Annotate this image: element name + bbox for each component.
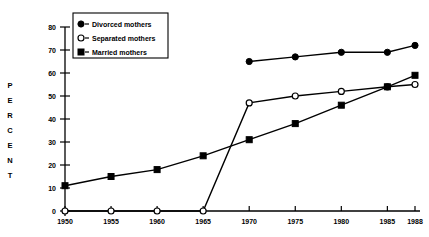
legend-marker	[78, 35, 84, 41]
y-tick-label: 0	[52, 208, 56, 215]
data-point-marker	[246, 100, 252, 106]
data-point-marker	[292, 54, 298, 60]
x-tick-label: 1950	[57, 218, 73, 225]
y-axis-tick-labels: 01020304050607080	[48, 24, 56, 215]
x-tick-label: 1985	[380, 218, 396, 225]
y-axis-title-letter: C	[7, 126, 13, 135]
x-tick-label: 1960	[149, 218, 165, 225]
y-tick-label: 30	[48, 139, 56, 146]
data-point-marker	[412, 42, 418, 48]
x-tick-label: 1988	[407, 218, 423, 225]
legend-entry-label: Married mothers	[92, 49, 147, 56]
x-tick-label: 1980	[334, 218, 350, 225]
x-tick-label: 1965	[195, 218, 211, 225]
legend-marker	[78, 49, 84, 55]
data-point-marker	[384, 49, 390, 55]
data-point-marker	[246, 58, 252, 64]
x-tick-label: 1955	[103, 218, 119, 225]
data-point-marker	[338, 102, 344, 108]
x-axis-ticks	[65, 206, 415, 211]
data-point-marker	[412, 82, 418, 88]
data-point-marker	[246, 137, 252, 143]
series-lines-group	[65, 45, 415, 211]
y-tick-label: 10	[48, 185, 56, 192]
legend-entry-label: Divorced mothers	[92, 21, 152, 28]
legend: Divorced mothersSeparated mothersMarried…	[73, 13, 168, 58]
data-point-marker	[338, 88, 344, 94]
y-axis-title-letter: E	[7, 141, 12, 150]
legend-marker	[78, 21, 84, 27]
data-point-marker	[338, 49, 344, 55]
legend-entry-label: Separated mothers	[92, 35, 156, 43]
y-tick-label: 20	[48, 162, 56, 169]
data-point-marker	[292, 93, 298, 99]
data-point-marker	[154, 167, 160, 173]
chart-container: 01020304050607080 1950195519601965197019…	[0, 0, 429, 237]
y-tick-label: 50	[48, 93, 56, 100]
y-tick-label: 60	[48, 70, 56, 77]
data-point-marker	[200, 153, 206, 159]
data-point-marker	[154, 208, 160, 214]
y-axis-title-letter: E	[7, 96, 12, 105]
data-point-marker	[108, 174, 114, 180]
data-point-marker	[108, 208, 114, 214]
y-tick-label: 40	[48, 116, 56, 123]
series-line	[65, 75, 415, 185]
data-point-marker	[384, 84, 390, 90]
data-point-marker	[62, 208, 68, 214]
x-tick-label: 1975	[287, 218, 303, 225]
x-tick-label: 1970	[241, 218, 257, 225]
series-markers-group	[62, 42, 418, 214]
data-point-marker	[412, 72, 418, 78]
data-point-marker	[292, 121, 298, 127]
data-point-marker	[62, 183, 68, 189]
y-axis-title: PERCENT	[7, 81, 13, 180]
series-line	[65, 85, 415, 212]
y-axis-title-letter: R	[7, 111, 13, 120]
y-tick-label: 70	[48, 47, 56, 54]
x-axis-tick-labels: 195019551960196519701975198019851988	[57, 218, 423, 225]
line-chart: 01020304050607080 1950195519601965197019…	[0, 0, 429, 237]
y-tick-label: 80	[48, 24, 56, 31]
y-axis-title-letter: P	[7, 81, 12, 90]
y-axis-title-letter: T	[8, 171, 13, 180]
data-point-marker	[200, 208, 206, 214]
y-axis-title-letter: N	[7, 156, 12, 165]
